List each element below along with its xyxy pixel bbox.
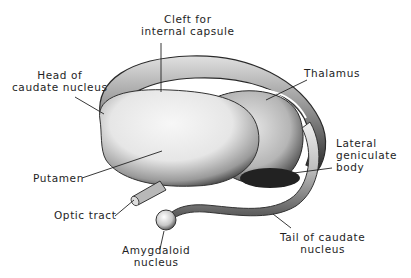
label-line: Putamen	[33, 172, 84, 184]
label-tail-caudate-nucleus: Tail of caudate nucleus	[280, 231, 365, 255]
label-line: Amygdaloid	[122, 244, 190, 256]
label-lateral-geniculate-body: Lateral geniculate body	[336, 137, 397, 173]
anatomy-diagram: Cleft for internal capsule Head of cauda…	[0, 0, 411, 278]
label-line: Head of	[12, 69, 107, 81]
label-line: Tail of caudate	[280, 231, 365, 243]
label-head-caudate-nucleus: Head of caudate nucleus	[12, 69, 107, 93]
amygdaloid-nucleus	[156, 210, 176, 230]
putamen	[100, 90, 259, 187]
label-cleft-internal-capsule: Cleft for internal capsule	[141, 13, 235, 37]
label-line: Optic tract	[54, 209, 116, 221]
label-line: Cleft for	[141, 13, 235, 25]
lateral-geniculate-body	[240, 168, 300, 188]
label-putamen: Putamen	[33, 172, 84, 184]
label-line: Lateral	[336, 137, 397, 149]
label-line: body	[336, 161, 397, 173]
label-line: nucleus	[280, 243, 365, 255]
label-line: caudate nucleus	[12, 81, 107, 93]
label-line: Thalamus	[304, 67, 360, 79]
label-line: geniculate	[336, 149, 397, 161]
label-line: nucleus	[122, 256, 190, 268]
label-line: internal capsule	[141, 25, 235, 37]
label-thalamus: Thalamus	[304, 67, 360, 79]
label-amygdaloid-nucleus: Amygdaloid nucleus	[122, 244, 190, 268]
label-optic-tract: Optic tract	[54, 209, 116, 221]
